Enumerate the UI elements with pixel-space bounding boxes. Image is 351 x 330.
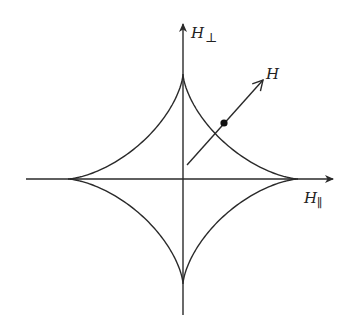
field-vector-label: H	[265, 65, 280, 83]
field-point	[220, 119, 227, 126]
astroid-diagram: H⊥ H∥ H	[0, 0, 351, 330]
vertical-axis-label: H⊥	[190, 24, 217, 45]
horizontal-axis-label: H∥	[303, 189, 323, 210]
